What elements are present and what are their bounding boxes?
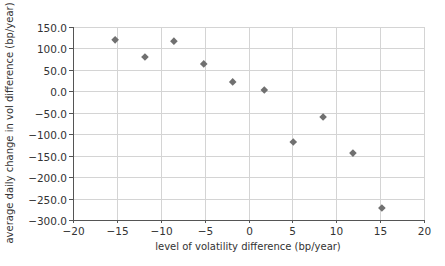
y-tick-label: 0.0 <box>50 86 67 98</box>
axes <box>69 27 425 223</box>
data-point-diamond <box>200 60 208 68</box>
data-point-diamond <box>289 138 297 146</box>
x-tick-label: 15 <box>374 225 387 237</box>
y-tick-label: 100.0 <box>37 43 67 55</box>
y-tick-label: −300.0 <box>28 215 67 227</box>
x-tick-label: 0 <box>246 225 253 237</box>
y-tick-label: −200.0 <box>28 172 67 184</box>
x-tick-label: 5 <box>289 225 296 237</box>
x-tick-label: 10 <box>330 225 343 237</box>
x-tick-label: −5 <box>198 225 213 237</box>
y-tick-label: −250.0 <box>28 194 67 206</box>
x-tick-label: −15 <box>106 225 128 237</box>
y-tick-label: 50.0 <box>44 65 67 77</box>
data-point-diamond <box>141 53 149 61</box>
data-point-diamond <box>378 204 386 212</box>
y-axis-label: average daily change in vol difference (… <box>4 2 15 243</box>
x-axis-tick-labels: −20−15−10−505101520 <box>62 225 431 237</box>
data-point-diamond <box>319 113 327 121</box>
y-axis-tick-labels: 150.0100.050.00.0−50.0−100.0−150.0−200.0… <box>28 22 67 227</box>
y-tick-label: −50.0 <box>35 108 67 120</box>
y-tick-label: −150.0 <box>28 151 67 163</box>
scatter-chart: 150.0100.050.00.0−50.0−100.0−150.0−200.0… <box>0 0 445 266</box>
data-point-diamond <box>260 86 268 94</box>
grid-lines <box>73 27 425 221</box>
data-point-diamond <box>229 78 237 86</box>
y-tick-label: −100.0 <box>28 129 67 141</box>
data-point-diamond <box>349 149 357 157</box>
y-tick-label: 150.0 <box>37 22 67 34</box>
data-points <box>111 36 385 212</box>
x-tick-label: −10 <box>150 225 172 237</box>
x-tick-label: −20 <box>62 225 84 237</box>
data-point-diamond <box>170 37 178 45</box>
x-tick-label: 20 <box>418 225 431 237</box>
x-axis-label: level of volatility difference (bp/year) <box>155 241 341 252</box>
